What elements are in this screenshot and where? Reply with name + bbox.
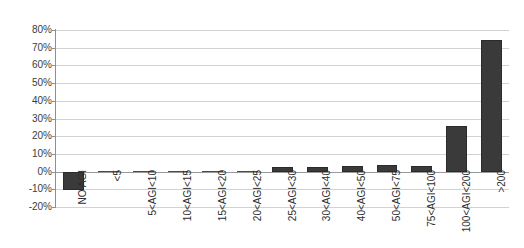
x-tick-label-text: <5 (112, 170, 123, 244)
x-tick-label: 40<AGI<50 (356, 170, 367, 244)
x-tick-label-text: 75<AGI<100 (426, 170, 437, 244)
x-tick-label-text: 10<AGI<15 (182, 170, 193, 244)
y-tick-label: 20% (12, 131, 52, 141)
y-tick-mark (52, 207, 56, 208)
x-tick-label: NO AGI (77, 170, 88, 244)
x-tick-label-text: NO AGI (77, 170, 88, 244)
y-tick-mark (52, 101, 56, 102)
y-tick-label: 60% (12, 60, 52, 70)
x-tick-label-text: 5<AGI<10 (147, 170, 158, 244)
x-tick-label-text: >200 (496, 170, 507, 244)
y-tick-mark (52, 83, 56, 84)
x-tick-label: 30<AGI<40 (321, 170, 332, 244)
y-tick-mark (52, 189, 56, 190)
bar (481, 40, 502, 171)
y-tick-label: 30% (12, 114, 52, 124)
x-tick-label: 5<AGI<10 (147, 170, 158, 244)
y-tick-label: 50% (12, 78, 52, 88)
x-tick-label: 10<AGI<15 (182, 170, 193, 244)
x-axis-labels: NO AGI<55<AGI<1010<AGI<1515<AGI<2020<AGI… (56, 172, 509, 248)
x-tick-label-text: 30<AGI<40 (321, 170, 332, 244)
x-tick-label-text: 50<AGI<75 (391, 170, 402, 244)
y-tick-label: 80% (12, 25, 52, 35)
y-tick-mark (52, 119, 56, 120)
bar-chart: 80%70%60%50%40%30%20%10%0%-10%-20% NO AG… (0, 0, 524, 248)
y-tick-mark (52, 154, 56, 155)
x-tick-label: <5 (112, 170, 123, 244)
y-tick-mark (52, 65, 56, 66)
x-tick-label-text: 100<AGI<200 (461, 170, 472, 244)
x-tick-label: 20<AGI<25 (252, 170, 263, 244)
y-tick-label: 40% (12, 96, 52, 106)
x-tick-label-text: 40<AGI<50 (356, 170, 367, 244)
y-tick-label: -10% (12, 184, 52, 194)
y-tick-label: 70% (12, 43, 52, 53)
y-tick-label: 0% (12, 167, 52, 177)
x-tick-label-text: 15<AGI<20 (217, 170, 228, 244)
x-tick-label: 100<AGI<200 (461, 170, 472, 244)
x-tick-label: 25<AGI<30 (287, 170, 298, 244)
x-tick-label: >200 (496, 170, 507, 244)
x-tick-label-text: 20<AGI<25 (252, 170, 263, 244)
y-axis-labels: 80%70%60%50%40%30%20%10%0%-10%-20% (8, 0, 52, 248)
x-tick-label: 50<AGI<75 (391, 170, 402, 244)
y-tick-mark (52, 30, 56, 31)
x-tick-label-text: 25<AGI<30 (287, 170, 298, 244)
y-tick-mark (52, 48, 56, 49)
x-tick-label: 15<AGI<20 (217, 170, 228, 244)
x-tick-label: 75<AGI<100 (426, 170, 437, 244)
bar (446, 126, 467, 171)
y-tick-label: 10% (12, 149, 52, 159)
y-tick-mark (52, 136, 56, 137)
y-tick-label: -20% (12, 202, 52, 212)
y-tick-mark (52, 172, 56, 173)
